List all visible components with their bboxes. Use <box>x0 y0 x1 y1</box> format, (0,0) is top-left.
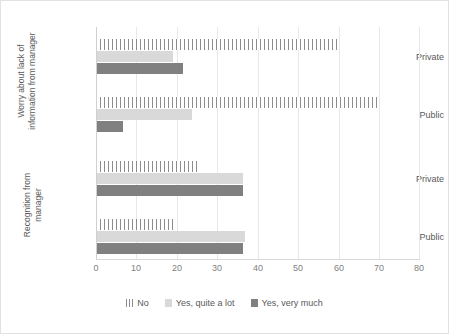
x-tick-70: 70 <box>367 263 391 273</box>
gridline-20 <box>177 27 178 259</box>
chart-legend: No Yes, quite a lot Yes, very much <box>1 298 448 308</box>
x-tick-80: 80 <box>407 263 431 273</box>
bar-recognition-public-very <box>96 243 243 254</box>
gridline-50 <box>298 27 299 259</box>
x-tick-20: 20 <box>165 263 189 273</box>
plot-area <box>96 27 420 259</box>
gridline-30 <box>217 27 218 259</box>
bar-worry-public-very <box>96 121 123 132</box>
chart-container: Worry about lack of information from man… <box>0 0 449 334</box>
bar-recognition-private-no <box>96 161 197 172</box>
legend-item-quite-a-lot[interactable]: Yes, quite a lot <box>165 298 235 308</box>
group-title-recognition: Recognition from manager <box>22 166 46 244</box>
bar-worry-private-quite <box>96 51 173 62</box>
bar-worry-public-no <box>96 97 377 108</box>
legend-label-very-much: Yes, very much <box>262 298 323 308</box>
y-axis-line <box>96 27 97 259</box>
legend-label-no: No <box>137 298 149 308</box>
legend-swatch-quite-a-lot-icon <box>165 299 172 307</box>
legend-label-quite-a-lot: Yes, quite a lot <box>176 298 235 308</box>
legend-item-no[interactable]: No <box>126 298 149 308</box>
bar-recognition-public-no <box>96 219 173 230</box>
x-tick-10: 10 <box>124 263 148 273</box>
bar-recognition-private-quite <box>96 173 243 184</box>
legend-swatch-no-icon <box>126 299 133 307</box>
gridline-60 <box>339 27 340 259</box>
x-tick-30: 30 <box>205 263 229 273</box>
bar-recognition-private-very <box>96 185 243 196</box>
x-tick-50: 50 <box>286 263 310 273</box>
x-axis-line <box>96 259 420 260</box>
bar-worry-private-very <box>96 63 183 74</box>
gridline-70 <box>379 27 380 259</box>
legend-item-very-much[interactable]: Yes, very much <box>251 298 323 308</box>
gridline-80 <box>419 27 420 259</box>
bar-worry-public-quite <box>96 109 192 120</box>
bar-worry-private-no <box>96 39 337 50</box>
x-tick-60: 60 <box>327 263 351 273</box>
bar-recognition-public-quite <box>96 231 245 242</box>
x-tick-40: 40 <box>246 263 270 273</box>
gridline-40 <box>258 27 259 259</box>
x-tick-0: 0 <box>84 263 108 273</box>
group-title-worry: Worry about lack of information from man… <box>16 24 50 139</box>
legend-swatch-very-much-icon <box>251 299 258 307</box>
